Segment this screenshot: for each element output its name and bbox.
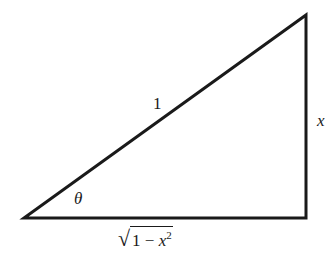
right-triangle xyxy=(24,15,306,218)
angle-theta-label: θ xyxy=(74,190,82,207)
adjacent-side-label: √1 − x2 xyxy=(118,226,173,252)
hypotenuse-label: 1 xyxy=(153,95,162,112)
radicand: 1 − x2 xyxy=(130,226,173,251)
radical-sign: √ xyxy=(118,226,130,251)
opposite-side-label: x xyxy=(317,112,325,129)
